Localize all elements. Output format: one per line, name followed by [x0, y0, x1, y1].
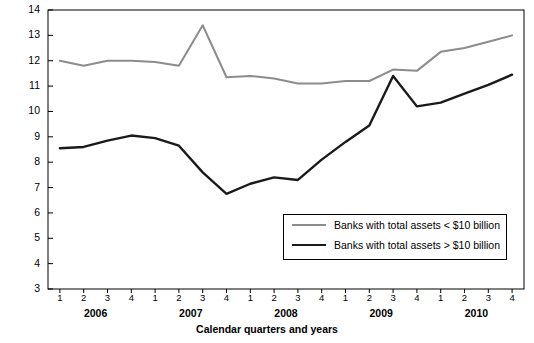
legend-label-large-banks: Banks with total assets > $10 billion — [334, 239, 500, 251]
chart-legend: Banks with total assets < $10 billion Ba… — [283, 214, 507, 260]
legend-swatch-large-banks — [292, 244, 326, 246]
legend-item-large-banks: Banks with total assets > $10 billion — [284, 235, 506, 255]
legend-swatch-small-banks — [292, 224, 326, 226]
plot-area — [0, 0, 534, 343]
legend-item-small-banks: Banks with total assets < $10 billion — [284, 215, 506, 235]
chart-container: Ratio of Tier 1 capital to risk-adjusted… — [0, 0, 534, 343]
legend-label-small-banks: Banks with total assets < $10 billion — [334, 219, 500, 231]
series-line-small-banks — [60, 25, 512, 83]
series-line-large-banks — [60, 75, 512, 194]
